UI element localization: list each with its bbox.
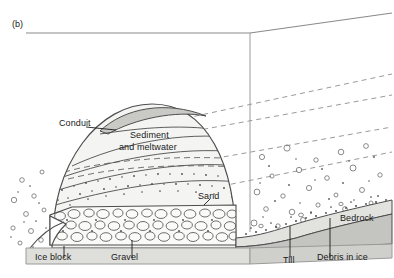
- panel-tag: (b): [12, 19, 23, 29]
- label-sediment-line2: and meltwater: [119, 142, 177, 153]
- label-till: Till: [283, 255, 295, 266]
- substrate: [236, 196, 392, 252]
- label-bedrock: Bedrock: [340, 213, 374, 224]
- gravel-layer: [50, 205, 239, 245]
- label-conduit: Conduit: [59, 118, 91, 129]
- ice-bubbles-left: [11, 170, 46, 245]
- figure-canvas: (b) Conduit Sediment and meltwater Sand …: [0, 0, 394, 278]
- label-sand: Sand: [198, 191, 219, 202]
- cross-section-drawing: [0, 0, 394, 278]
- ice-debris-dots-left: [10, 185, 47, 248]
- label-debris-in-ice: Debris in ice: [317, 252, 368, 263]
- label-ice-block: Ice block: [35, 252, 71, 263]
- label-sediment-line1: Sediment: [130, 130, 169, 141]
- label-gravel: Gravel: [111, 252, 138, 263]
